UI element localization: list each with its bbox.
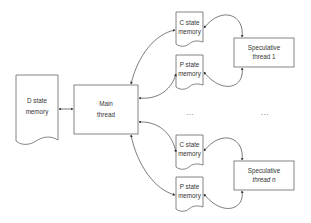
p-state-1-label-line1: P state	[180, 61, 200, 68]
p-state-n-label-line2: memory	[178, 192, 202, 200]
spec-1-label-line2: thread 1	[252, 53, 276, 60]
d-state-label-line2: memory	[26, 108, 50, 116]
edge-main-p-state-1-arrow	[139, 74, 176, 98]
d-state-label-line1: D state	[27, 97, 47, 104]
spec-n-label-line2: thread n	[252, 176, 276, 183]
spec-1-label-line1: Speculative	[248, 44, 281, 52]
edge-p-state-n-spec-n-arrow	[204, 191, 242, 208]
spec-n-label-line1: Speculative	[248, 167, 281, 175]
ellipsis-thread-column: ...	[261, 108, 269, 117]
edge-main-p-state-n-arrow	[131, 135, 175, 195]
c-state-memory-n-node: C state memory	[176, 135, 203, 169]
diagram-canvas: D state memory Main thread C state memor…	[0, 0, 311, 223]
c-state-n-label-line1: C state	[180, 141, 200, 148]
speculative-thread-n-node: Speculative thread n	[234, 161, 294, 190]
edge-c-state-n-spec-n-arrow	[204, 138, 242, 160]
d-state-memory-node: D state memory	[16, 75, 58, 144]
p-state-memory-1-node: P state memory	[176, 55, 203, 89]
c-state-memory-1-node: C state memory	[176, 12, 203, 46]
c-state-1-label-line2: memory	[178, 28, 202, 36]
p-state-1-label-line2: memory	[178, 70, 202, 78]
p-state-n-label-line1: P state	[180, 183, 200, 190]
main-thread-label-line1: Main	[99, 100, 113, 107]
p-state-memory-n-node: P state memory	[176, 177, 203, 211]
main-thread-label-line2: thread	[97, 111, 115, 118]
speculative-thread-1-node: Speculative thread 1	[234, 38, 294, 67]
c-state-n-label-line2: memory	[178, 150, 202, 158]
main-thread-node: Main thread	[74, 85, 138, 134]
edge-c-state-1-spec-1-arrow	[204, 15, 242, 37]
c-state-1-label-line1: C state	[180, 19, 200, 26]
edge-main-c-state-1-arrow	[131, 30, 175, 84]
edge-p-state-1-spec-1-arrow	[204, 68, 242, 86]
edge-main-c-state-n-arrow	[139, 122, 176, 152]
ellipsis-memory-column: ...	[186, 108, 194, 117]
